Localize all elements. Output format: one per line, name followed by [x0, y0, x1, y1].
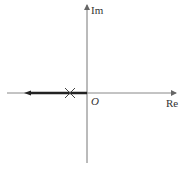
origin-label: O: [91, 95, 99, 107]
imag-axis-label: Im: [91, 4, 104, 16]
real-axis-label: Re: [166, 97, 178, 109]
root-locus-diagram: Im Re O: [0, 0, 186, 173]
locus-direction-arrow-icon: [24, 91, 31, 96]
